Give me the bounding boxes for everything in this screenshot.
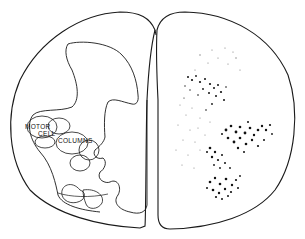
dorsal-median-septum — [155, 30, 156, 35]
spinal-cord-diagram — [0, 0, 305, 239]
degeneration-stipple — [175, 47, 273, 200]
motor-cell-column-7 — [62, 185, 85, 203]
label-cell: CELL — [38, 131, 55, 138]
motor-cell-column-6 — [70, 155, 90, 171]
right-half-outline — [157, 12, 295, 229]
label-columns: COLUMNS — [58, 138, 93, 145]
left-half-outline — [11, 12, 155, 228]
motor-cell-column-8 — [83, 190, 103, 209]
